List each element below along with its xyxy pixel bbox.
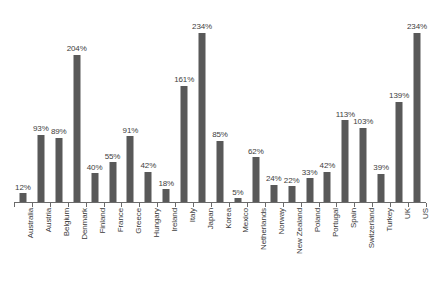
category-label: Ireland — [170, 208, 179, 232]
bar-value-label: 24% — [266, 174, 282, 183]
bar-slot: 234% — [193, 14, 211, 202]
category-label: France — [116, 208, 125, 232]
category-label: Japan — [206, 208, 215, 229]
category-label: Australia — [26, 208, 35, 238]
x-axis-tick — [32, 203, 33, 207]
x-axis-tick — [301, 203, 302, 207]
x-axis-line — [14, 202, 426, 203]
bar-slot: 39% — [372, 14, 390, 202]
bar — [324, 172, 331, 202]
x-axis-tick — [426, 203, 427, 207]
bar-value-label: 89% — [51, 127, 67, 136]
x-axis-tick — [193, 203, 194, 207]
bar-slot: 22% — [283, 14, 301, 202]
x-axis-tick — [68, 203, 69, 207]
category-label: Norway — [277, 208, 286, 235]
bar-value-label: 18% — [158, 179, 174, 188]
category-label: Korea — [224, 208, 233, 229]
bar — [181, 86, 188, 202]
x-axis-tick — [86, 203, 87, 207]
bar-slot: 103% — [354, 14, 372, 202]
bar — [73, 55, 80, 203]
category-label: Hungary — [152, 208, 161, 238]
x-axis-tick — [121, 203, 122, 207]
bar-slot: 89% — [50, 14, 68, 202]
category-label: Belgium — [62, 208, 71, 236]
category-label: Denmark — [80, 208, 89, 240]
bar-value-label: 93% — [33, 124, 49, 133]
bar — [288, 186, 295, 202]
bar — [414, 33, 421, 202]
bar — [252, 157, 259, 202]
category-label: Austria — [44, 208, 53, 232]
bar-slot: 234% — [408, 14, 426, 202]
x-axis-tick — [247, 203, 248, 207]
bar — [109, 162, 116, 202]
category-label: New Zealand — [295, 208, 304, 254]
bar — [127, 136, 134, 202]
category-label: Netherlands — [259, 208, 268, 250]
bar-slot: 42% — [319, 14, 337, 202]
x-axis-tick — [354, 203, 355, 207]
x-axis-tick — [157, 203, 158, 207]
chart-title-sliver — [0, 0, 441, 10]
bar-value-label: 55% — [105, 152, 121, 161]
bar-value-label: 139% — [389, 91, 409, 100]
bar-slot: 33% — [301, 14, 319, 202]
bar — [396, 102, 403, 203]
bar-slot: 55% — [104, 14, 122, 202]
bar — [270, 185, 277, 202]
bar — [37, 135, 44, 202]
bar-value-label: 62% — [248, 147, 264, 156]
category-label: Italy — [188, 208, 197, 222]
bar-slot: 113% — [336, 14, 354, 202]
bar — [91, 173, 98, 202]
x-axis-tick — [265, 203, 266, 207]
bar — [306, 178, 313, 202]
bar — [145, 172, 152, 202]
category-label: Mexico — [241, 208, 250, 233]
bars-layer: 12%93%89%204%40%55%91%42%18%161%234%85%5… — [14, 14, 426, 202]
bar-slot: 5% — [229, 14, 247, 202]
plot-area: 12%93%89%204%40%55%91%42%18%161%234%85%5… — [14, 14, 426, 202]
bar — [360, 128, 367, 202]
bar-value-label: 39% — [373, 163, 389, 172]
bar-slot: 139% — [390, 14, 408, 202]
bar-value-label: 204% — [67, 44, 87, 53]
bar-slot: 91% — [121, 14, 139, 202]
bar — [342, 120, 349, 202]
bar — [163, 189, 170, 202]
category-label: US — [421, 208, 430, 219]
bar-slot: 161% — [175, 14, 193, 202]
bar-value-label: 33% — [302, 168, 318, 177]
bar — [199, 33, 206, 202]
category-label: Finland — [98, 208, 107, 234]
bar-value-label: 22% — [284, 176, 300, 185]
bar-value-label: 113% — [336, 110, 355, 119]
bar-slot: 93% — [32, 14, 50, 202]
bar-value-label: 234% — [192, 22, 212, 31]
bar — [216, 141, 223, 202]
bar-slot: 85% — [211, 14, 229, 202]
bar-value-label: 5% — [232, 188, 243, 197]
x-axis-tick — [283, 203, 284, 207]
bar-value-label: 234% — [407, 22, 427, 31]
x-axis-tick — [229, 203, 230, 207]
bar-value-label: 91% — [123, 126, 139, 135]
bar-slot: 62% — [247, 14, 265, 202]
category-label: Poland — [313, 208, 322, 232]
bar-chart: 12%93%89%204%40%55%91%42%18%161%234%85%5… — [0, 0, 441, 287]
bar-value-label: 42% — [320, 161, 336, 170]
bar-slot: 204% — [68, 14, 86, 202]
x-axis-tick — [50, 203, 51, 207]
category-label: Turkey — [385, 208, 394, 232]
bar-value-label: 40% — [87, 163, 103, 172]
x-axis-tick — [14, 203, 15, 207]
bar-slot: 12% — [14, 14, 32, 202]
bar-slot: 18% — [157, 14, 175, 202]
bar-slot: 40% — [86, 14, 104, 202]
bar-value-label: 85% — [212, 130, 228, 139]
x-axis-tick — [372, 203, 373, 207]
bar-value-label: 12% — [15, 183, 31, 192]
category-label: Spain — [349, 208, 358, 228]
